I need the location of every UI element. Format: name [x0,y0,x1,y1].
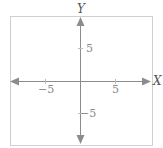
x-axis-right-arrow-icon [142,78,151,86]
coordinate-plane [0,0,163,148]
x-tick-label-5: 5 [112,84,119,95]
y-axis-label: Y [77,3,85,15]
y-tick-label-5: 5 [86,43,93,54]
x-axis-label: X [153,75,162,87]
x-axis-left-arrow-icon [10,78,19,86]
y-tick-label-neg5: −5 [80,108,96,119]
x-tick-label-neg5: −5 [38,84,54,95]
y-axis-top-arrow-icon [77,17,85,26]
y-axis-bottom-arrow-icon [77,135,85,144]
